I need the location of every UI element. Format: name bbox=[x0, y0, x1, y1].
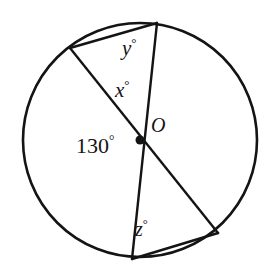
center-point-dot bbox=[136, 136, 145, 145]
central-angle-value: 130 bbox=[76, 133, 109, 158]
angle-label-x: x° bbox=[115, 78, 130, 101]
angle-label-z: z° bbox=[135, 218, 148, 239]
angle-label-y: y° bbox=[122, 36, 137, 59]
geometry-figure: y° x° 130° O z° bbox=[0, 0, 273, 268]
angle-label-z-text: z bbox=[135, 218, 143, 240]
center-label-O: O bbox=[151, 115, 165, 135]
degree-symbol-130: ° bbox=[109, 133, 114, 148]
degree-symbol-z: ° bbox=[143, 217, 148, 231]
angle-label-x-text: x bbox=[115, 78, 124, 102]
degree-symbol-y: ° bbox=[131, 35, 136, 50]
central-angle-label-130: 130° bbox=[76, 134, 114, 157]
degree-symbol-x: ° bbox=[124, 77, 129, 92]
angle-label-y-text: y bbox=[122, 36, 131, 60]
